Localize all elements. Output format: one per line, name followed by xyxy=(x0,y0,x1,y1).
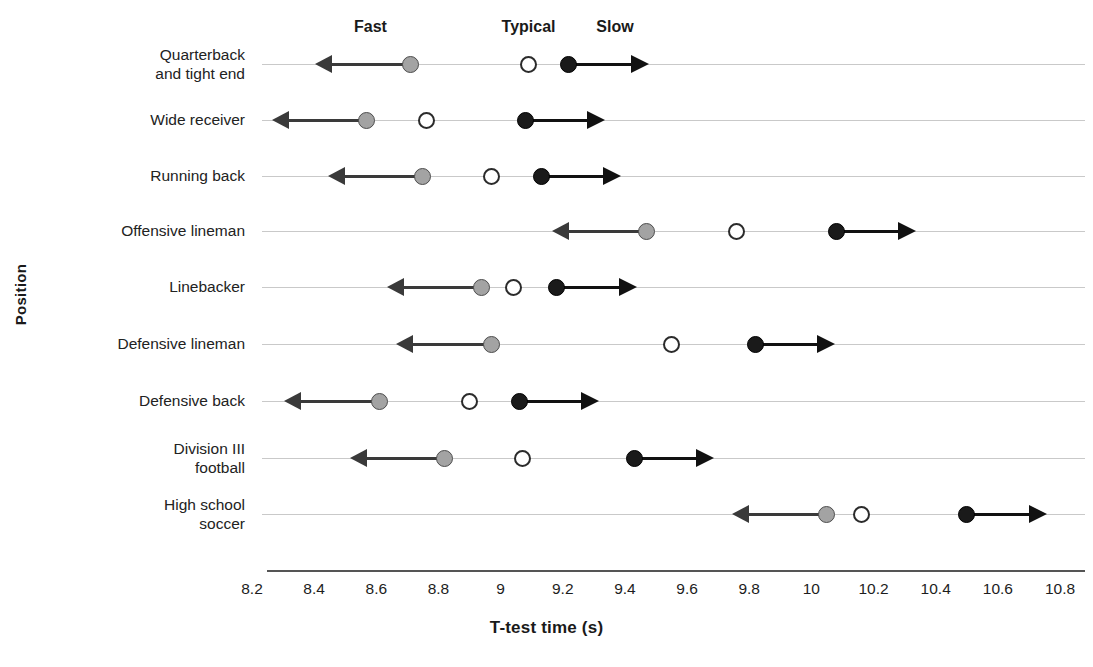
typical-marker xyxy=(520,56,537,73)
slow-marker xyxy=(548,279,565,296)
row-label: Running back xyxy=(45,166,245,185)
gridline xyxy=(262,120,1085,121)
row-label: Quarterback and tight end xyxy=(45,45,245,83)
slow-marker xyxy=(533,168,550,185)
fast-marker xyxy=(483,336,500,353)
slow-marker xyxy=(511,393,528,410)
fast-segment xyxy=(289,119,367,122)
fast-marker xyxy=(436,450,453,467)
chart-canvas: Position T-test time (s) Fast Typical Sl… xyxy=(0,0,1093,667)
slow-segment xyxy=(967,513,1029,517)
x-tick-label: 9.4 xyxy=(614,580,636,598)
slow-arrow-right-icon xyxy=(619,278,637,296)
x-tick-label: 8.2 xyxy=(241,580,263,598)
x-tick-label: 9 xyxy=(496,580,505,598)
fast-arrow-left-icon xyxy=(272,111,289,129)
slow-arrow-right-icon xyxy=(631,55,649,73)
x-axis-line xyxy=(267,570,1085,572)
slow-arrow-right-icon xyxy=(817,335,835,353)
x-tick-label: 10.4 xyxy=(921,580,951,598)
slow-marker xyxy=(517,112,534,129)
slow-segment xyxy=(569,63,631,67)
typical-marker xyxy=(853,506,870,523)
legend-header-typical: Typical xyxy=(502,18,556,36)
fast-arrow-left-icon xyxy=(315,55,332,73)
slow-arrow-right-icon xyxy=(603,167,621,185)
row-label: High school soccer xyxy=(45,495,245,533)
x-tick-label: 10.8 xyxy=(1045,580,1075,598)
fast-arrow-left-icon xyxy=(396,335,413,353)
slow-segment xyxy=(755,343,817,347)
slow-arrow-right-icon xyxy=(587,111,605,129)
row-label: Defensive lineman xyxy=(45,334,245,353)
slow-segment xyxy=(541,175,603,179)
x-tick-label: 8.6 xyxy=(366,580,388,598)
fast-marker xyxy=(358,112,375,129)
slow-marker xyxy=(828,223,845,240)
typical-marker xyxy=(728,223,745,240)
slow-marker xyxy=(626,450,643,467)
fast-marker xyxy=(371,393,388,410)
typical-marker xyxy=(483,168,500,185)
fast-arrow-left-icon xyxy=(350,449,367,467)
slow-segment xyxy=(519,400,581,404)
typical-marker xyxy=(461,393,478,410)
slow-segment xyxy=(634,457,696,461)
fast-marker xyxy=(638,223,655,240)
fast-segment xyxy=(332,63,410,66)
legend-header-slow: Slow xyxy=(596,18,633,36)
slow-marker xyxy=(747,336,764,353)
slow-arrow-right-icon xyxy=(1029,505,1047,523)
fast-arrow-left-icon xyxy=(732,505,749,523)
typical-marker xyxy=(418,112,435,129)
x-tick-label: 9.2 xyxy=(552,580,574,598)
x-tick-label: 10.6 xyxy=(983,580,1013,598)
gridline xyxy=(262,287,1085,288)
gridline xyxy=(262,231,1085,232)
fast-segment xyxy=(404,286,482,289)
fast-segment xyxy=(367,457,445,460)
y-axis-title: Position xyxy=(12,245,29,345)
fast-marker xyxy=(414,168,431,185)
x-axis-title: T-test time (s) xyxy=(0,618,1093,638)
fast-segment xyxy=(413,343,491,346)
fast-segment xyxy=(345,175,423,178)
row-label: Wide receiver xyxy=(45,110,245,129)
fast-arrow-left-icon xyxy=(284,392,301,410)
typical-marker xyxy=(514,450,531,467)
fast-segment xyxy=(749,513,827,516)
slow-segment xyxy=(525,119,587,123)
slow-arrow-right-icon xyxy=(696,449,714,467)
fast-marker xyxy=(473,279,490,296)
slow-segment xyxy=(836,230,898,234)
x-tick-label: 8.8 xyxy=(428,580,450,598)
slow-marker xyxy=(958,506,975,523)
row-label: Defensive back xyxy=(45,391,245,410)
legend-header-fast: Fast xyxy=(354,18,387,36)
x-tick-label: 8.4 xyxy=(303,580,325,598)
slow-segment xyxy=(557,286,619,290)
fast-segment xyxy=(301,400,379,403)
row-label: Offensive lineman xyxy=(45,221,245,240)
fast-arrow-left-icon xyxy=(328,167,345,185)
fast-segment xyxy=(569,230,647,233)
x-tick-label: 9.6 xyxy=(676,580,698,598)
fast-marker xyxy=(818,506,835,523)
slow-arrow-right-icon xyxy=(898,222,916,240)
slow-marker xyxy=(560,56,577,73)
row-label: Division III football xyxy=(45,439,245,477)
fast-arrow-left-icon xyxy=(387,278,404,296)
fast-marker xyxy=(402,56,419,73)
slow-arrow-right-icon xyxy=(581,392,599,410)
typical-marker xyxy=(663,336,680,353)
typical-marker xyxy=(505,279,522,296)
x-tick-label: 10.2 xyxy=(858,580,888,598)
fast-arrow-left-icon xyxy=(552,222,569,240)
x-tick-label: 9.8 xyxy=(738,580,760,598)
row-label: Linebacker xyxy=(45,277,245,296)
x-tick-label: 10 xyxy=(803,580,820,598)
